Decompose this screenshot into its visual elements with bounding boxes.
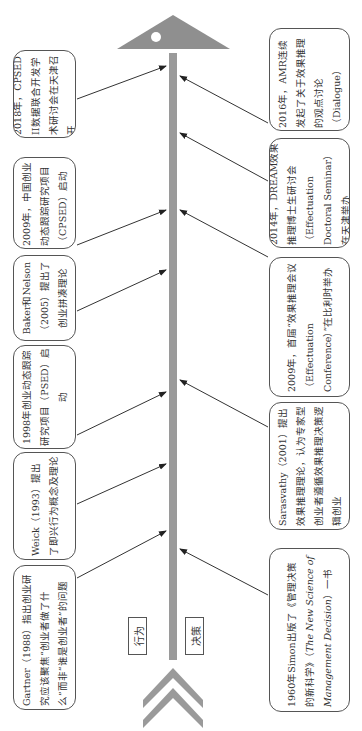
timeline-spine <box>169 53 177 660</box>
event-box-cpsed2-2018: 2018年，CPSED II数据联合开发学术研讨会在天津召开 <box>13 50 76 138</box>
event-box-amr-2016: 2016年，AMR连续发起了关于效果推理的观点讨论（Dialogue） <box>269 28 350 131</box>
label-behavior: 行为 <box>128 617 147 655</box>
simon-text-end: ）一书 <box>322 569 333 599</box>
event-box-sarasvathy-2001: Sarasvathy（2001）提出效果推理理论，认为专家型创业者遵循效果推理决… <box>269 402 350 530</box>
event-box-gartner-1988: Gartner（1988）指出创业研究应该聚焦“创业者做了什么”而非“谁是创业者… <box>13 565 76 710</box>
event-box-cpsed-2009: 2009年，中国创业动态跟踪研究项目（CPSED）启动 <box>13 157 76 249</box>
event-box-simon-1960: 1960年Simon出版了《管理决策的新科学》（The New Science … <box>269 548 350 712</box>
event-box-psed-1998: 1998年创业动态跟踪研究项目（PSED）启动 <box>13 345 76 449</box>
effectuation-timeline-diagram: 行为 决策 2018年，CPSED II数据联合开发学术研讨会在天津召开 200… <box>0 0 362 731</box>
chevron-up-icon <box>143 668 203 728</box>
event-box-baker-nelson-2005: Baker和Nelson（2005）提出了创业拼凑理论 <box>13 255 76 341</box>
spine-arrowhead-icon <box>117 15 230 49</box>
event-box-dream-2014: 2014年，DREAM效果推理博士生研讨会（Effectuation Docto… <box>269 138 350 248</box>
label-decision: 决策 <box>185 617 204 655</box>
event-box-weick-1993: Weick（1993）提出了即兴行为概念及理论 <box>13 452 76 560</box>
event-box-effectuation-conference-2009: 2009年，首届“效果推理会议（Effectuation Conference）… <box>269 257 350 397</box>
